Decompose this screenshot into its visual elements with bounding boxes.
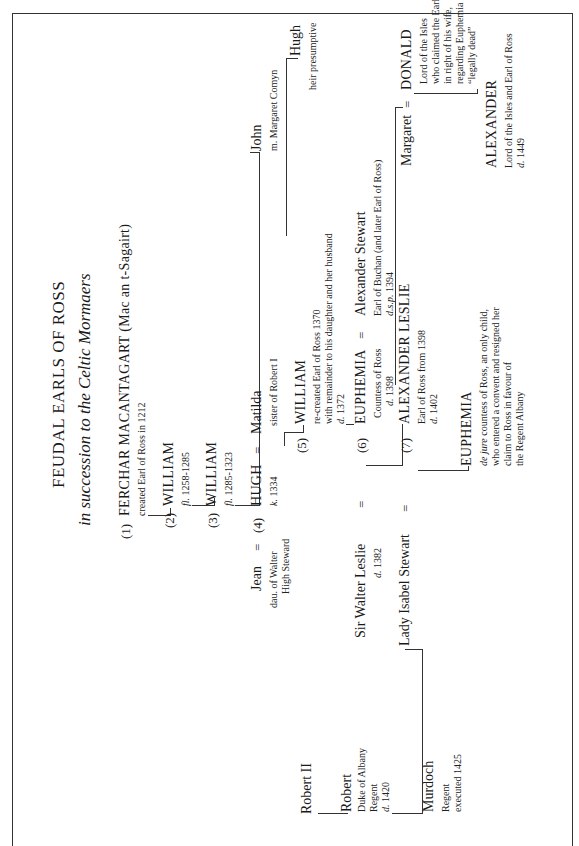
line-robert2-robert <box>318 813 348 814</box>
robert-albany-death-year: 1420 <box>380 782 391 802</box>
line-to-isabel <box>405 649 422 650</box>
line-donald-alexander-h <box>477 89 478 94</box>
line-hugh-heir-tick <box>286 58 298 59</box>
alexander-stewart-name: Alexander Stewart <box>354 211 368 316</box>
william3-name: WILLIAM <box>205 442 219 506</box>
euphemia-jure-note-4: the Regent Albany <box>514 392 526 466</box>
euphemia-jure-line-1: countess of Ross, an only child, <box>478 309 489 436</box>
hugh-heir-name: Hugh <box>289 25 303 56</box>
died-label: d. <box>372 571 383 579</box>
robert-albany-name: Robert <box>340 774 354 812</box>
walter-leslie-death: d. 1382 <box>372 548 384 578</box>
donald-note-5: “legally dead” <box>466 27 478 84</box>
murdoch-note-2: executed 1425 <box>452 754 464 812</box>
chart-subtitle: in succession to the Celtic Mormaers <box>76 273 93 526</box>
equals-sign: = <box>401 101 414 108</box>
william3-number: (3) <box>206 513 219 528</box>
donald-note-3: in right of his wife, <box>442 7 454 84</box>
william2-number: (2) <box>163 513 176 528</box>
equals-sign: = <box>251 544 264 551</box>
hugh4-name: HUGH <box>250 464 264 506</box>
matilda-note: sister of Robert I <box>268 359 280 427</box>
alexander-leslie-name: ALEXANDER LESLIE <box>398 284 412 425</box>
robert-albany-note-2: Regent <box>368 784 380 812</box>
equals-sign: = <box>399 505 412 512</box>
robert-albany-note-1: Duke of Albany <box>356 748 368 812</box>
donald-note-4: regarding Euphemia as <box>454 0 466 84</box>
euphemia6-name: EUPHEMIA <box>354 349 368 424</box>
euphemia6-death-year: 1398 <box>384 376 395 396</box>
william5-note-1: re-created Earl of Ross 1370 <box>311 310 323 424</box>
died-label: d. <box>515 161 526 169</box>
line-john-hugh <box>286 59 287 236</box>
floruit-label: fl. <box>180 498 191 506</box>
equals-sign: = <box>355 501 368 508</box>
line-robert-children <box>392 813 422 814</box>
euphemia-jure-note-3: claim to Ross in favour of <box>502 362 514 466</box>
alexander-isles-death: d. 1449 <box>515 138 527 168</box>
william5-death: d. 1372 <box>335 394 347 424</box>
dsp-label: d.s.p. <box>384 295 395 316</box>
ferchar-number: (1) <box>119 524 132 539</box>
alexander-leslie-note: Earl of Ross from 1398 <box>416 330 428 424</box>
line-donald-alexander <box>414 93 477 94</box>
jean-name: Jean <box>250 566 264 591</box>
line-to-euphemia-jure <box>418 470 468 471</box>
donald-name: DONALD <box>400 29 414 90</box>
robert-albany-death: d. 1420 <box>380 782 392 812</box>
donald-note-1: Lord of the Isles <box>418 18 430 84</box>
hugh4-note: k. 1334 <box>268 477 280 506</box>
william3-dates: 1285-1323 <box>223 452 234 495</box>
floruit-label: fl. <box>223 498 234 506</box>
alexander-isles-note: Lord of the Isles and Earl of Ross <box>503 33 515 168</box>
euphemia-jure-note-2: who entered a convent and resigned her <box>490 307 502 466</box>
died-label: d. <box>384 399 395 407</box>
euphemia6-note: Countess of Ross <box>372 349 384 418</box>
john-note: m. Margaret Comyn <box>268 70 280 151</box>
matilda-name: Matilda <box>250 390 264 434</box>
died-label: d. <box>380 805 391 813</box>
william2-name: WILLIAM <box>162 442 176 506</box>
william2-note: fl. 1258-1285 <box>180 452 192 506</box>
died-label: d. <box>335 417 346 425</box>
family-tree-page: FEUDAL EARLS OF ROSS in succession to th… <box>0 0 579 846</box>
isabel-name: Lady Isabel Stewart <box>398 534 412 646</box>
line-to-alexander-leslie <box>366 465 402 466</box>
john-name: John <box>250 125 264 151</box>
line-to-euphemia6 <box>346 424 354 425</box>
william5-note-2: with remainder to his daughter and her h… <box>323 233 335 424</box>
line-to-euphemia-jure-h <box>468 466 469 471</box>
killed-label: k. <box>268 499 279 506</box>
hugh-heir-note: heir presumptive <box>307 23 319 90</box>
line-to-william5-h <box>303 425 304 433</box>
chart-title: FEUDAL EARLS OF ROSS <box>50 281 67 488</box>
hugh4-death: 1334 <box>268 477 279 497</box>
william3-note: fl. 1285-1323 <box>223 452 235 506</box>
jean-note-1: dau. of Walter <box>268 552 280 609</box>
william5-number: (5) <box>295 438 308 453</box>
donald-note-2: who claimed the Earldom <box>430 0 442 84</box>
equals-sign: = <box>355 332 368 339</box>
walter-leslie-name: Sir Walter Leslie <box>354 544 368 638</box>
murdoch-name: Murdoch <box>422 761 436 812</box>
william5-death-year: 1372 <box>335 394 346 414</box>
euphemia-jure-name: EUPHEMIA <box>460 391 474 466</box>
line-siblings-margaret <box>395 108 396 385</box>
ferchar-name: FERCHAR MACANTAGART (Mac an t-Sagairt) <box>118 224 132 516</box>
alexander-stewart-death-year: 1394 <box>384 272 395 292</box>
died-label: d. <box>428 417 439 425</box>
robert2-name: Robert II <box>300 763 314 814</box>
line-to-william5 <box>284 432 303 433</box>
alexander-leslie-death-year: 1402 <box>428 394 439 414</box>
william5-name: WILLIAM <box>294 360 308 424</box>
euphemia6-number: (6) <box>355 438 368 453</box>
alexander-isles-death-year: 1449 <box>515 138 526 158</box>
william2-dates: 1258-1285 <box>180 452 191 495</box>
alexander-leslie-number: (7) <box>399 438 412 453</box>
line-hugh-matilda <box>284 433 285 446</box>
murdoch-note-1: Regent <box>440 784 452 812</box>
de-jure-label: de jure <box>478 438 489 466</box>
hugh4-number: (4) <box>251 518 264 533</box>
equals-sign: = <box>251 447 264 454</box>
alexander-isles-name: ALEXANDER <box>485 80 499 168</box>
